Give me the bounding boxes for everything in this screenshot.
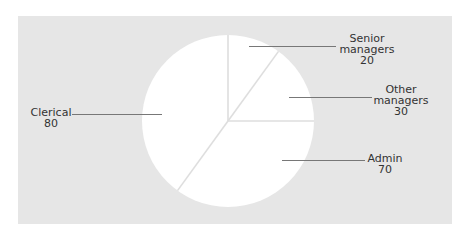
label-clerical-value: 80 [29,118,73,129]
label-admin-value: 70 [364,164,406,175]
label-senior-managers: Senior managers 20 [338,33,396,66]
label-other-value: 30 [372,106,430,117]
label-clerical: Clerical 80 [29,107,73,129]
label-senior-value: 20 [338,55,396,66]
label-admin: Admin 70 [364,153,406,175]
label-other-managers: Other managers 30 [372,84,430,117]
